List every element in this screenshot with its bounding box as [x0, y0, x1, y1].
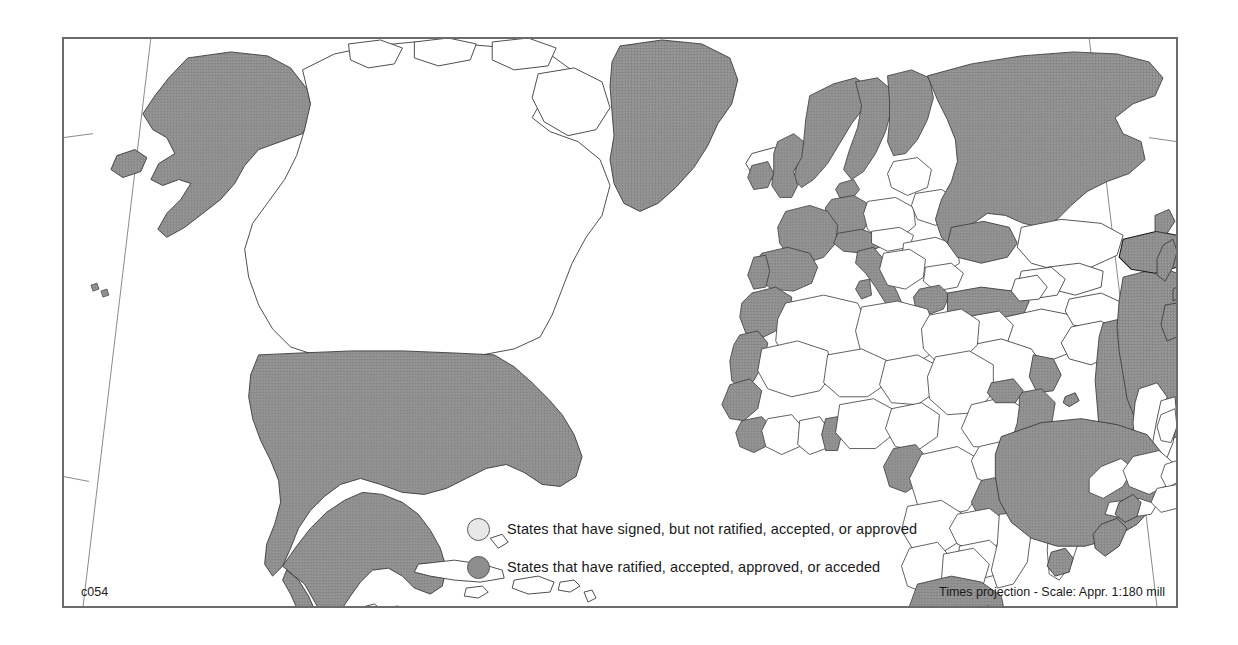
sheet-code-label: c054	[81, 585, 108, 599]
legend-label-ratified: States that have ratified, accepted, app…	[507, 559, 880, 575]
projection-scale-label: Times projection - Scale: Appr. 1:180 mi…	[939, 585, 1165, 599]
legend-swatch-ratified	[467, 556, 490, 579]
map-page: States that have signed, but not ratifie…	[0, 0, 1238, 645]
legend-swatch-signed	[467, 518, 490, 541]
legend-label-signed: States that have signed, but not ratifie…	[507, 521, 917, 537]
legend-row-ratified: States that have ratified, accepted, app…	[467, 548, 1107, 586]
map-legend: States that have signed, but not ratifie…	[467, 510, 1107, 586]
legend-row-signed: States that have signed, but not ratifie…	[467, 510, 1107, 548]
country-ukraine	[947, 221, 1017, 263]
country-niger	[824, 349, 888, 397]
map-frame: States that have signed, but not ratifie…	[62, 37, 1178, 608]
